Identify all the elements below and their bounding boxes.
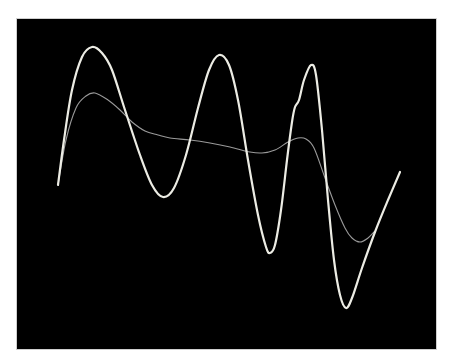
waveform-primary-trace — [58, 47, 400, 308]
waveform-plot — [0, 0, 456, 364]
waveform-secondary-trace — [58, 93, 374, 242]
